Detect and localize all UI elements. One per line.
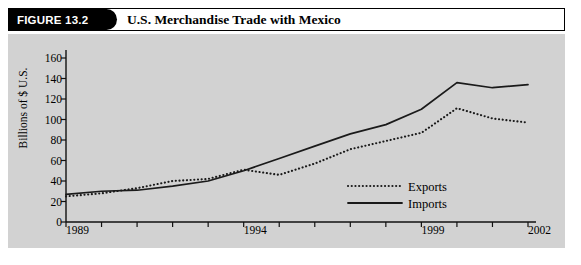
x-tick-label: 1999 (421, 224, 444, 236)
x-tick-label: 1989 (66, 224, 89, 236)
chart-panel: Billions of $ U.S. 020406080100120140160… (8, 34, 565, 248)
legend-label-exports: Exports (408, 180, 447, 194)
figure-container: FIGURE 13.2 U.S. Merchandise Trade with … (0, 0, 581, 265)
figure-title: U.S. Merchandise Trade with Mexico (127, 9, 341, 30)
figure-number-label: FIGURE 13.2 (9, 14, 88, 26)
legend-label-imports: Imports (408, 197, 447, 211)
chart-svg: ExportsImports (8, 34, 565, 248)
x-tick-label: 2002 (528, 224, 551, 236)
x-tick-label: 1994 (244, 224, 267, 236)
figure-number-tag: FIGURE 13.2 (9, 9, 117, 30)
figure-header: FIGURE 13.2 U.S. Merchandise Trade with … (8, 8, 565, 31)
axes (61, 50, 536, 227)
series-line-imports (66, 83, 528, 195)
data-series (66, 83, 528, 197)
chart-legend: ExportsImports (348, 180, 447, 211)
